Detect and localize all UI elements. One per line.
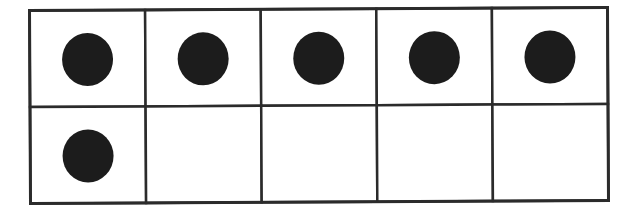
- counter-dot: [524, 30, 575, 83]
- counter-dot: [62, 129, 113, 182]
- counter-dot: [293, 32, 344, 85]
- ten-frame-cell: [492, 104, 608, 201]
- ten-frame: [0, 0, 628, 215]
- counter-dot: [62, 33, 113, 86]
- counter-dot: [409, 31, 460, 84]
- ten-frame-cell: [146, 106, 262, 203]
- counter-dot: [178, 32, 229, 85]
- ten-frame-graphic: [0, 0, 628, 215]
- ten-frame-cell: [261, 105, 377, 202]
- ten-frame-cell: [377, 105, 493, 202]
